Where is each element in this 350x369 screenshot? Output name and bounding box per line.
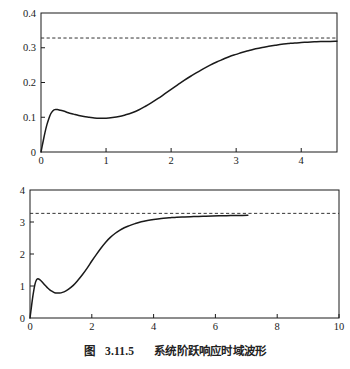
- x-tick-label: 3: [234, 155, 239, 166]
- x-tick-label: 0: [38, 155, 43, 166]
- y-tick-label: 0.2: [23, 77, 36, 88]
- bottom-chart-svg: 024681001234: [0, 175, 350, 340]
- x-tick-label: 2: [168, 155, 173, 166]
- caption-number: 3.11.5: [105, 345, 134, 357]
- y-tick-label: 0.4: [23, 8, 37, 19]
- bottom-chart-panel: 024681001234: [0, 175, 350, 340]
- y-tick-label: 0: [20, 313, 25, 324]
- y-tick-label: 0.3: [23, 42, 36, 53]
- series-line: [41, 41, 337, 152]
- top-chart-panel: 0123400.10.20.30.4: [0, 0, 350, 175]
- plot-frame: [30, 190, 339, 318]
- y-tick-label: 3: [20, 217, 25, 228]
- x-tick-label: 6: [213, 321, 218, 332]
- x-tick-label: 0: [27, 321, 32, 332]
- y-tick-label: 2: [20, 249, 25, 260]
- y-tick-label: 0: [31, 147, 36, 158]
- x-tick-label: 2: [89, 321, 94, 332]
- x-tick-label: 4: [299, 155, 305, 166]
- caption-title: 系统阶跃响应时域波形: [154, 344, 266, 358]
- y-tick-label: 0.1: [23, 112, 36, 123]
- y-tick-label: 1: [20, 281, 25, 292]
- x-tick-label: 4: [151, 321, 157, 332]
- y-tick-label: 4: [20, 185, 26, 196]
- x-tick-label: 1: [103, 155, 108, 166]
- figure-container: 0123400.10.20.30.4 024681001234 图3.11.5系…: [0, 0, 350, 369]
- x-tick-label: 10: [334, 321, 345, 332]
- figure-caption: 图3.11.5系统阶跃响应时域波形: [0, 342, 350, 358]
- caption-label: 图: [84, 345, 95, 357]
- x-tick-label: 8: [275, 321, 280, 332]
- series-line: [30, 215, 248, 318]
- plot-frame: [41, 13, 337, 152]
- top-chart-svg: 0123400.10.20.30.4: [0, 0, 350, 175]
